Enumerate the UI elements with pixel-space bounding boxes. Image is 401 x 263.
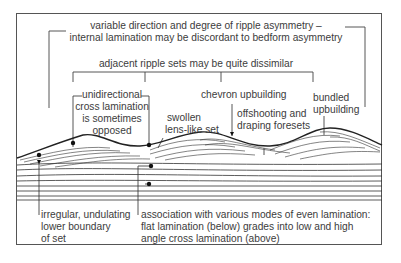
label-association-3: angle cross lamination (above)	[141, 233, 280, 244]
label-top-line2: internal lamination may be discordant to…	[56, 32, 356, 43]
label-offshooting-2: draping foresets	[237, 120, 310, 131]
adjacent-bracket	[73, 72, 313, 82]
label-bundled-1: bundled	[313, 92, 349, 103]
label-irregular-2: lower boundary	[41, 221, 111, 232]
label-unidirectional-3: is sometimes	[74, 113, 150, 124]
label-unidirectional-2: cross lamination	[74, 101, 150, 112]
label-association-2: flat lamination (below) grades into low …	[141, 221, 353, 232]
label-association-1: association with various modes of even l…	[141, 209, 370, 220]
label-swollen-1: swollen	[167, 112, 201, 123]
label-swollen-2: lens-like set	[165, 124, 219, 135]
label-top-line1: variable direction and degree of ripple …	[66, 20, 346, 31]
label-offshooting-1: offshooting and	[237, 108, 307, 119]
label-adjacent: adjacent ripple sets may be quite dissim…	[86, 58, 306, 69]
label-chevron: chevron upbuilding	[201, 89, 287, 100]
label-unidirectional-4: opposed	[74, 125, 150, 136]
label-irregular-1: irregular, undulating	[41, 209, 130, 220]
label-bundled-2: upbuilding	[313, 104, 359, 115]
label-irregular-3: of set	[41, 233, 66, 244]
label-unidirectional-1: unidirectional	[74, 89, 150, 100]
